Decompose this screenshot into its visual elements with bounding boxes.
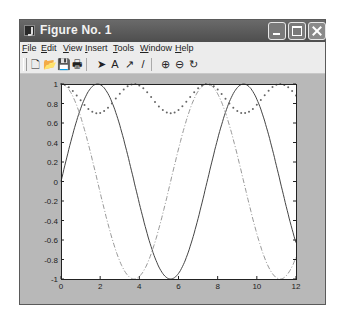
envelope-dot [111,102,113,104]
zoom-out-icon[interactable]: ⊖ [173,58,185,70]
envelope-dot [142,87,144,89]
minimize-button[interactable] [268,22,286,40]
figure-window: Figure No. 1 FileEditViewInsertToolsWind… [19,19,326,305]
y-tick-label: 0.4 [47,139,59,148]
envelope-dot [72,90,74,92]
envelope-dot [68,86,70,88]
y-tick-label: -0.6 [44,236,58,245]
toolbar: 🗋📂💾🖶➤A↗/⊕⊖↻ [20,56,325,74]
title-bar[interactable]: Figure No. 1 [20,20,325,42]
x-tick-label: 2 [98,282,103,291]
envelope-dot [240,112,242,114]
envelope-dot [228,103,230,105]
save-icon[interactable]: 💾 [57,58,69,70]
envelope-dot [115,98,117,100]
x-tick-label: 8 [215,282,220,291]
x-tick-label: 4 [137,282,142,291]
envelope-dot [80,99,82,101]
x-tick-label: 10 [252,282,261,291]
envelope-dot [76,94,78,96]
toolbar-grip[interactable] [23,58,27,71]
x-tick-label: 12 [292,282,301,291]
envelope-dot [166,112,168,114]
envelope-dot [95,112,97,114]
toolbar-separator [86,58,87,71]
plot-svg: 024681012-1-0.8-0.6-0.4-0.200.20.40.60.8… [20,74,325,304]
envelope-dot [158,106,160,108]
envelope-dot [154,101,156,103]
maximize-button[interactable] [288,22,306,40]
menu-window[interactable]: Window [140,43,172,53]
envelope-dot [256,104,258,106]
matlab-icon [24,25,35,36]
menu-view[interactable]: View [63,43,82,53]
y-tick-label: 0.2 [47,158,59,167]
y-tick-label: 0.6 [47,119,59,128]
insert-arrow-icon[interactable]: ↗ [123,58,135,70]
envelope-dot [162,109,164,111]
envelope-dot [87,108,89,110]
figure-canvas: 024681012-1-0.8-0.6-0.4-0.200.20.40.60.8… [20,74,325,304]
menu-insert[interactable]: Insert [85,43,108,53]
rotate-3d-icon[interactable]: ↻ [187,58,199,70]
envelope-dot [268,90,270,92]
print-icon[interactable]: 🖶 [71,58,83,70]
envelope-dot [185,101,187,103]
envelope-dot [291,90,293,92]
envelope-dot [146,91,148,93]
envelope-dot [123,89,125,91]
y-tick-label: -0.8 [44,256,58,265]
envelope-dot [189,96,191,98]
x-tick-label: 0 [59,282,64,291]
envelope-dot [213,85,215,87]
envelope-dot [225,98,227,100]
envelope-dot [84,104,86,106]
new-figure-icon[interactable]: 🗋 [29,58,41,70]
envelope-dot [170,112,172,114]
menu-edit[interactable]: Edit [41,43,57,53]
envelope-dot [107,107,109,109]
envelope-dot [99,112,101,114]
x-tick-label: 6 [176,282,181,291]
envelope-dot [217,89,219,91]
envelope-dot [236,110,238,112]
y-tick-label: -1 [51,275,59,284]
envelope-dot [103,110,105,112]
select-arrow-icon[interactable]: ➤ [95,58,107,70]
envelope-dot [272,86,274,88]
menu-file[interactable]: File [22,43,37,53]
menu-bar: FileEditViewInsertToolsWindowHelp [20,42,325,56]
envelope-dot [150,96,152,98]
insert-line-icon[interactable]: / [137,58,149,70]
menu-help[interactable]: Help [175,43,194,53]
y-tick-label: 1 [54,80,59,89]
envelope-dot [91,111,93,113]
envelope-dot [197,87,199,89]
zoom-in-icon[interactable]: ⊕ [159,58,171,70]
y-tick-label: -0.4 [44,217,58,226]
envelope-dot [178,109,180,111]
envelope-dot [248,111,250,113]
y-tick-label: 0.8 [47,100,59,109]
envelope-dot [221,93,223,95]
envelope-dot [287,86,289,88]
envelope-dot [260,99,262,101]
window-title: Figure No. 1 [40,23,112,37]
envelope-dot [264,94,266,96]
envelope-dot [181,105,183,107]
menu-tools[interactable]: Tools [113,43,134,53]
envelope-dot [252,108,254,110]
insert-text-icon[interactable]: A [109,58,121,70]
close-button[interactable] [308,22,326,40]
y-tick-label: -0.2 [44,197,58,206]
envelope-dot [119,93,121,95]
envelope-dot [174,111,176,113]
envelope-dot [232,107,234,109]
envelope-dot [193,91,195,93]
open-file-icon[interactable]: 📂 [43,58,55,70]
envelope-dot [244,112,246,114]
toolbar-separator [151,58,152,71]
envelope-dot [127,85,129,87]
y-tick-label: 0 [54,178,59,187]
